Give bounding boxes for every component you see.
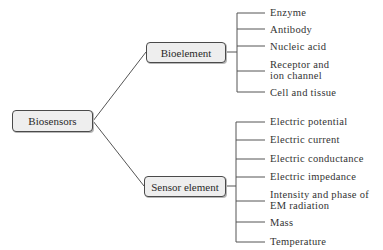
leaf-em-radiation: Intensity and phase of EM radiation <box>270 189 369 211</box>
leaf-cell-tissue: Cell and tissue <box>270 87 336 98</box>
leaf-temperature: Temperature <box>270 236 326 247</box>
branch-label: Bioelement <box>161 47 212 59</box>
root-node-biosensors: Biosensors <box>12 110 93 132</box>
branch-label: Sensor element <box>151 181 219 193</box>
leaf-mass: Mass <box>270 217 293 228</box>
leaf-electric-current: Electric current <box>270 134 340 145</box>
leaf-electric-impedance: Electric impedance <box>270 171 356 182</box>
branch-node-sensor-element: Sensor element <box>144 176 226 197</box>
leaf-receptor-ion-channel: Receptor and ion channel <box>270 59 329 81</box>
root-label: Biosensors <box>28 115 76 127</box>
branch-node-bioelement: Bioelement <box>146 42 226 63</box>
leaf-antibody: Antibody <box>270 24 312 35</box>
leaf-electric-conductance: Electric conductance <box>270 153 364 164</box>
leaf-enzyme: Enzyme <box>270 7 306 18</box>
leaf-electric-potential: Electric potential <box>270 116 347 127</box>
leaf-nucleic-acid: Nucleic acid <box>270 41 326 52</box>
